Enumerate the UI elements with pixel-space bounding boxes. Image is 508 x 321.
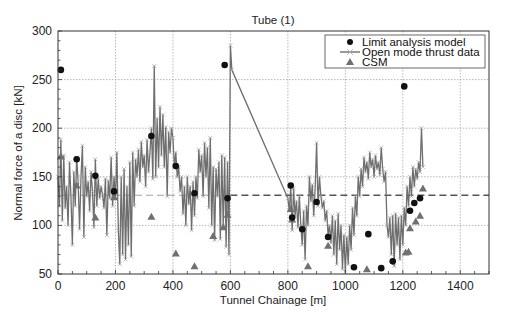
chart-title: Tube (1) — [251, 14, 294, 26]
series-csm — [57, 152, 427, 272]
triangle-marker-icon — [419, 184, 427, 191]
y-tick-label: 50 — [39, 267, 53, 281]
y-tick-label: 100 — [32, 218, 52, 232]
circle-marker-icon — [287, 182, 294, 189]
circle-marker-icon — [417, 195, 424, 202]
circle-marker-icon — [92, 173, 99, 180]
circle-marker-icon — [401, 83, 408, 90]
x-tick-labels: 0200400600800100012001400 — [55, 279, 474, 293]
circle-marker-icon — [407, 208, 414, 215]
circle-marker-icon — [411, 200, 418, 207]
circle-marker-icon — [325, 234, 332, 241]
chart: 0200400600800100012001400 50100150200250… — [0, 0, 508, 321]
triangle-marker-icon — [147, 213, 155, 220]
circle-marker-icon — [221, 62, 228, 69]
y-tick-label: 250 — [32, 73, 52, 87]
x-tick-label: 1400 — [447, 279, 474, 293]
x-tick-label: 200 — [105, 279, 125, 293]
circle-marker-icon — [148, 133, 155, 140]
series-open-mode-thrust-data — [56, 44, 425, 274]
triangle-marker-icon — [363, 265, 371, 272]
circle-marker-icon — [313, 199, 320, 206]
circle-marker-icon — [111, 188, 118, 195]
y-tick-labels: 50100150200250300 — [32, 24, 52, 281]
legend: Limit analysis model Open mode thrust da… — [325, 35, 485, 68]
circle-marker-icon — [365, 231, 372, 238]
circle-marker-icon — [191, 190, 198, 197]
circle-marker-icon — [289, 214, 296, 221]
x-tick-label: 800 — [278, 279, 298, 293]
triangle-marker-icon — [91, 214, 99, 221]
y-tick-label: 200 — [32, 121, 52, 135]
x-tick-label: 400 — [163, 279, 183, 293]
circle-marker-icon — [73, 156, 80, 163]
circle-marker-icon — [173, 163, 180, 170]
triangle-marker-icon — [416, 212, 424, 219]
x-tick-label: 600 — [220, 279, 240, 293]
x-axis-title: Tunnel Chainage [m] — [220, 294, 326, 306]
triangle-marker-icon — [209, 232, 217, 239]
circle-marker-icon — [224, 195, 231, 202]
y-axis-title: Normal force of a disc [kN] — [12, 85, 24, 220]
legend-circle-icon — [347, 39, 353, 45]
circle-marker-icon — [378, 265, 385, 272]
circle-marker-icon — [389, 258, 396, 265]
x-tick-label: 0 — [55, 279, 62, 293]
y-tick-label: 300 — [32, 24, 52, 38]
x-tick-label: 1200 — [389, 279, 416, 293]
triangle-marker-icon — [190, 262, 198, 269]
x-tick-label: 1000 — [332, 279, 359, 293]
legend-label-csm: CSM — [362, 56, 388, 68]
circle-marker-icon — [299, 226, 306, 233]
y-tick-label: 150 — [32, 170, 52, 184]
triangle-marker-icon — [304, 262, 312, 269]
circle-marker-icon — [351, 264, 358, 271]
